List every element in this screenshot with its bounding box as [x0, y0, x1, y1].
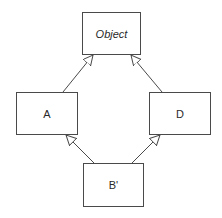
node-b-prime-label: B'	[109, 179, 118, 191]
edge-a-to-object	[63, 55, 93, 92]
inheritance-diagram: Object A D B'	[0, 0, 222, 218]
node-object: Object	[82, 12, 141, 55]
edge-d-to-object	[131, 55, 162, 92]
node-d: D	[149, 92, 211, 135]
node-a-label: A	[43, 108, 50, 120]
node-object-label: Object	[96, 28, 128, 40]
node-d-label: D	[176, 108, 184, 120]
node-b-prime: B'	[83, 163, 144, 207]
edge-b-to-d	[132, 135, 160, 163]
edge-b-to-a	[66, 135, 94, 163]
node-a: A	[16, 92, 78, 135]
